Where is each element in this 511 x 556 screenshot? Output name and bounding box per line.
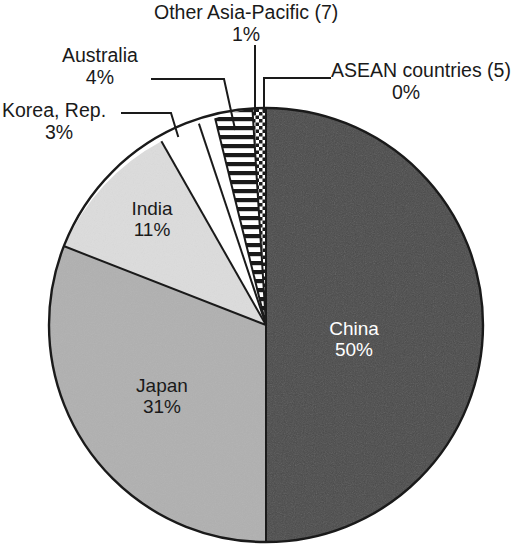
slice-label-other-asia-pacific-name: Other Asia-Pacific (7) [154,2,338,24]
slice-label-china: China 50% [306,318,402,361]
slice-label-asean-name: ASEAN countries (5) [331,60,511,82]
slice-label-australia-percent: 4% [62,67,138,89]
leader-line-asean [264,78,330,112]
slice-label-australia-name: Australia [62,45,138,67]
slice-label-australia: Australia 4% [62,45,138,89]
slice-label-other-asia-pacific-percent: 1% [154,24,338,46]
slice-label-china-name: China [306,318,402,339]
slice-label-india: India 11% [104,198,200,241]
slice-label-india-name: India [104,198,200,219]
slice-label-korea: Korea, Rep. 3% [0,100,152,144]
slice-label-india-percent: 11% [104,219,200,240]
slice-label-asean: ASEAN countries (5) 0% [331,60,511,104]
slice-label-japan-name: Japan [110,375,214,396]
slice-label-asean-percent: 0% [331,82,481,104]
slice-label-china-percent: 50% [306,339,402,360]
slice-label-korea-percent: 3% [0,122,118,144]
slice-label-japan-percent: 31% [110,396,214,417]
slice-label-other-asia-pacific: Other Asia-Pacific (7) 1% [154,2,338,46]
slice-label-korea-name: Korea, Rep. [0,100,152,122]
slice-label-japan: Japan 31% [110,375,214,418]
